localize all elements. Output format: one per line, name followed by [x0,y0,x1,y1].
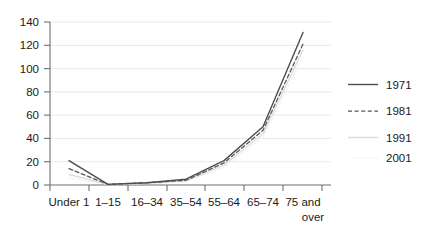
gridlines [50,22,331,162]
y-axis-label-0: 0 [33,179,39,191]
y-axis-label-80: 80 [26,86,39,98]
x-axis-label-65-74: 65–74 [247,196,280,208]
series-line-2001 [69,57,303,184]
x-axis-label-16-34: 16–34 [131,196,164,208]
y-axis-label-20: 20 [26,156,39,168]
x-axis: Under 1 1–15 16–34 35–54 55–64 65–74 75 … [49,185,331,223]
x-axis-label-75-and-over-line2: over [302,211,325,223]
x-axis-label-55-64: 55–64 [208,196,241,208]
legend-label-1991: 1991 [386,132,412,144]
chart-canvas: 140 120 100 80 60 40 20 0 Under 1 1–15 1… [0,0,422,241]
y-axis-label-100: 100 [20,63,39,75]
line-chart: 140 120 100 80 60 40 20 0 Under 1 1–15 1… [0,0,422,241]
x-axis-label-35-54: 35–54 [170,196,203,208]
legend: 1971 1981 1991 2001 [348,79,412,165]
legend-label-1971: 1971 [386,79,412,91]
y-axis: 140 120 100 80 60 40 20 0 [20,16,50,191]
y-axis-label-140: 140 [20,16,39,28]
x-axis-label-75-and-over-line1: 75 and [285,196,320,208]
y-axis-label-120: 120 [20,39,39,51]
x-axis-label-under-1: Under 1 [49,196,90,208]
y-axis-label-60: 60 [26,109,39,121]
series-line-1991 [69,50,303,184]
y-axis-label-40: 40 [26,132,39,144]
legend-label-2001: 2001 [386,152,412,164]
legend-label-1981: 1981 [386,105,412,117]
x-axis-label-1-15: 1–15 [95,196,121,208]
